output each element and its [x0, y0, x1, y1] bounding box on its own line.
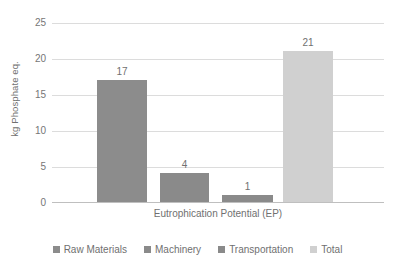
- legend-label: Transportation: [229, 244, 293, 255]
- bar-raw-materials[interactable]: [97, 80, 147, 202]
- y-axis-tick-label: 15: [22, 90, 46, 100]
- chart-legend: Raw MaterialsMachineryTransportationTota…: [0, 240, 395, 258]
- gridline: [52, 23, 384, 24]
- bar-chart: kg Phosphate eq. 0510152025 174121 Eutro…: [0, 0, 395, 268]
- x-axis-title: Eutrophication Potential (EP): [52, 208, 384, 219]
- legend-swatch-icon: [218, 246, 225, 253]
- legend-label: Machinery: [155, 244, 201, 255]
- y-axis-tick-label: 20: [22, 54, 46, 64]
- legend-swatch-icon: [53, 246, 60, 253]
- bar-transportation[interactable]: [222, 195, 273, 202]
- bar-value-label: 1: [222, 182, 273, 192]
- plot-area: 174121: [52, 23, 384, 203]
- x-axis-line: [52, 202, 384, 203]
- legend-item-machinery[interactable]: Machinery: [144, 244, 201, 255]
- gridline: [52, 59, 384, 60]
- legend-label: Raw Materials: [64, 244, 127, 255]
- bar-machinery[interactable]: [160, 173, 209, 202]
- y-axis-title: kg Phosphate eq.: [9, 29, 23, 169]
- legend-item-total[interactable]: Total: [310, 244, 342, 255]
- bar-total[interactable]: [283, 51, 333, 202]
- legend-swatch-icon: [144, 246, 151, 253]
- legend-swatch-icon: [310, 246, 317, 253]
- legend-label: Total: [321, 244, 342, 255]
- bar-value-label: 4: [160, 160, 209, 170]
- y-axis-tick-label: 5: [22, 162, 46, 172]
- y-axis-tick-label: 25: [22, 18, 46, 28]
- y-axis-tick-label: 0: [22, 198, 46, 208]
- legend-item-transportation[interactable]: Transportation: [218, 244, 293, 255]
- legend-item-raw-materials[interactable]: Raw Materials: [53, 244, 127, 255]
- bar-value-label: 17: [97, 67, 147, 77]
- y-axis-tick-label: 10: [22, 126, 46, 136]
- y-axis-tick-labels: 0510152025: [22, 0, 46, 215]
- bar-value-label: 21: [283, 38, 333, 48]
